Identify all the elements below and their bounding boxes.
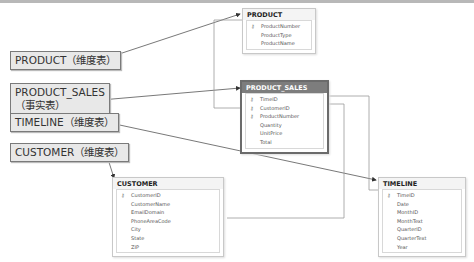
column-row[interactable]: Quantity (246, 121, 323, 130)
table-timeline[interactable]: TIMELINE ⚷TimeIDDateMonthIDMonthTextQuar… (378, 177, 466, 257)
table-title: CUSTOMER (113, 178, 223, 189)
table-title: TIMELINE (379, 178, 465, 189)
column-row[interactable]: ⚷CustomerID (246, 104, 323, 113)
label-customer: CUSTOMER（维度表） (10, 143, 129, 162)
column-name: ProductType (261, 32, 291, 38)
column-name: Quantity (260, 122, 282, 128)
label-timeline: TIMELINE（维度表） (10, 113, 119, 132)
column-row[interactable]: State (117, 234, 219, 243)
table-title: PRODUCT_SALES (242, 82, 327, 93)
column-name: City (131, 226, 141, 232)
table-product[interactable]: PRODUCT ⚷ProductNumberProductTypeProduct… (242, 8, 316, 54)
column-name: ZIP (131, 244, 139, 250)
column-row[interactable]: MonthText (383, 217, 461, 226)
column-row[interactable]: Total (246, 138, 323, 147)
column-row[interactable]: EmailDomain (117, 208, 219, 217)
column-row[interactable]: ⚷TimeID (383, 191, 461, 200)
primary-key-icon: ⚷ (121, 191, 125, 200)
column-name: ProductNumber (261, 23, 300, 29)
column-name: TimeID (260, 96, 278, 102)
primary-key-icon: ⚷ (250, 112, 254, 121)
column-name: Total (260, 139, 272, 145)
column-name: QuarterID (397, 226, 422, 232)
column-name: PhoneAreaCode (131, 218, 171, 224)
column-name: State (131, 235, 144, 241)
column-name: CustomerID (260, 105, 290, 111)
column-row[interactable]: QuarterID (383, 225, 461, 234)
column-row[interactable]: PhoneAreaCode (117, 217, 219, 226)
column-row[interactable]: ⚷TimeID (246, 95, 323, 104)
column-name: ProductNumber (260, 113, 299, 119)
column-row[interactable]: ProductType (247, 31, 311, 40)
primary-key-icon: ⚷ (387, 191, 391, 200)
column-name: CustomerID (131, 192, 161, 198)
column-row[interactable]: ⚷ProductNumber (246, 112, 323, 121)
table-title: PRODUCT (243, 9, 315, 20)
column-row[interactable]: ⚷ProductNumber (247, 22, 311, 31)
column-name: CustomerName (131, 201, 170, 207)
column-name: Date (397, 201, 409, 207)
column-row[interactable]: ZIP (117, 243, 219, 252)
column-name: Year (397, 244, 408, 250)
column-row[interactable]: ⚷CustomerID (117, 191, 219, 200)
column-row[interactable]: CustomerName (117, 200, 219, 209)
column-name: TimeID (397, 192, 415, 198)
label-product: PRODUCT（维度表） (10, 51, 121, 70)
primary-key-icon: ⚷ (250, 95, 254, 104)
table-product-sales[interactable]: PRODUCT_SALES ⚷TimeID⚷CustomerID⚷Product… (240, 80, 329, 154)
column-name: MonthID (397, 209, 418, 215)
column-name: UnitPrice (260, 130, 282, 136)
column-row[interactable]: Year (383, 243, 461, 252)
column-name: EmailDomain (131, 209, 164, 215)
column-row[interactable]: ProductName (247, 39, 311, 48)
column-row[interactable]: MonthID (383, 208, 461, 217)
column-name: ProductName (261, 40, 295, 46)
table-customer[interactable]: CUSTOMER ⚷CustomerIDCustomerNameEmailDom… (112, 177, 224, 257)
column-name: MonthText (397, 218, 423, 224)
column-row[interactable]: QuarterText (383, 234, 461, 243)
column-row[interactable]: City (117, 225, 219, 234)
label-product-sales: PRODUCT_SALES （事实表） (10, 83, 110, 115)
column-row[interactable]: Date (383, 200, 461, 209)
primary-key-icon: ⚷ (250, 104, 254, 113)
primary-key-icon: ⚷ (251, 22, 255, 31)
column-name: QuarterText (397, 235, 426, 241)
column-row[interactable]: UnitPrice (246, 129, 323, 138)
